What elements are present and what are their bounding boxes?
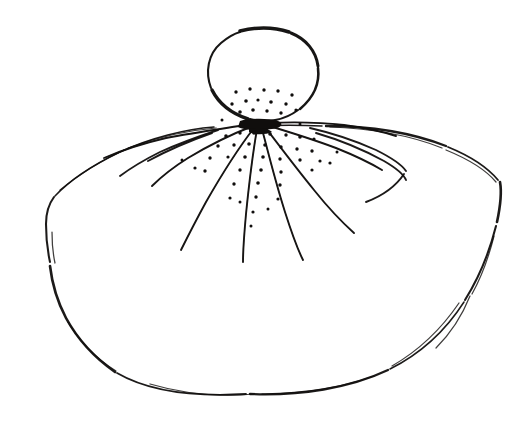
stipple-dot [256, 181, 260, 185]
stipple-dot [252, 131, 256, 135]
stipple-dot [276, 197, 279, 200]
stipple-dot [193, 166, 196, 169]
stipple-dot [238, 110, 242, 114]
stipple-dot [262, 88, 265, 91]
stipple-dot [256, 98, 259, 101]
stipple-dot [226, 155, 229, 158]
stipple-dot [239, 201, 242, 204]
stipple-dot [276, 89, 279, 92]
stipple-dot [234, 90, 237, 93]
stipple-dot [267, 208, 270, 211]
stipple-dot [251, 210, 254, 213]
stipple-dot [259, 168, 263, 172]
stipple-dot [278, 157, 281, 160]
stipple-dot [284, 102, 287, 105]
stipple-dot [251, 108, 255, 112]
stipple-dot [224, 134, 228, 138]
stipple-dot [263, 143, 267, 147]
stipple-dot [244, 99, 248, 103]
background [0, 0, 528, 428]
stipple-dot [268, 132, 272, 136]
stipple-dot [261, 155, 265, 159]
stipple-dot [254, 195, 257, 198]
stipple-dot [243, 155, 247, 159]
stipple-dot [279, 145, 282, 148]
stipple-dot [310, 149, 313, 152]
stipple-dot [278, 183, 281, 186]
stipple-dot [247, 142, 251, 146]
stipple-dot [284, 133, 287, 136]
stipple-dot [250, 225, 253, 228]
stipple-dot [279, 170, 282, 173]
stipple-dot [336, 151, 339, 154]
stipple-dot [294, 108, 297, 111]
sketch-canvas [0, 0, 528, 428]
stipple-dot [238, 168, 241, 171]
stipple-dot [298, 135, 302, 139]
stipple-dot [298, 158, 301, 161]
stipple-dot [295, 147, 298, 150]
stipple-dot [238, 131, 241, 134]
stipple-dot [230, 102, 233, 105]
stipple-dot [265, 109, 268, 112]
stipple-dot [269, 100, 273, 104]
stipple-dot [248, 87, 251, 90]
stipple-dot [228, 196, 231, 199]
ink-drawing [0, 0, 528, 428]
stipple-dot [312, 137, 315, 140]
stipple-dot [299, 123, 302, 126]
stipple-dot [208, 156, 211, 159]
stipple-dot [232, 182, 235, 185]
stipple-dot [328, 161, 331, 164]
stipple-dot [181, 159, 184, 162]
stipple-dot [310, 168, 313, 171]
stipple-dot [216, 144, 219, 147]
stipple-dot [221, 119, 224, 122]
stipple-dot [279, 111, 282, 114]
stipple-dot [203, 169, 206, 172]
stipple-dot [232, 143, 235, 146]
stipple-dot [318, 159, 321, 162]
stipple-dot [290, 93, 293, 96]
